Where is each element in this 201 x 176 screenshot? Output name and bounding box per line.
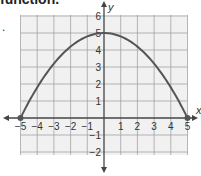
- y-tick-label: 6: [95, 11, 101, 22]
- y-tick-label: −1: [90, 130, 102, 141]
- y-tick-label: 4: [95, 45, 101, 56]
- y-axis-down-arrow-icon: [101, 167, 107, 173]
- x-tick-label: −4: [31, 121, 43, 132]
- x-tick-label: 5: [185, 121, 191, 132]
- x-intercept-point: [185, 115, 191, 121]
- x-tick-label: 3: [151, 121, 157, 132]
- y-tick-label: 1: [95, 96, 101, 107]
- y-axis-label: y: [107, 1, 115, 13]
- x-tick-label: −5: [15, 121, 27, 132]
- y-tick-label: −2: [90, 147, 102, 158]
- x-axis-left-arrow-icon: [3, 115, 9, 121]
- x-tick-label: 2: [135, 121, 141, 132]
- y-tick-label: 2: [95, 79, 101, 90]
- y-tick-label: 3: [95, 62, 101, 73]
- y-axis-up-arrow-icon: [101, 1, 107, 7]
- x-tick-label: 1: [118, 121, 124, 132]
- x-axis-label: x: [195, 104, 201, 116]
- x-tick-label: −2: [65, 121, 77, 132]
- x-tick-label: 4: [168, 121, 174, 132]
- parabola-chart: yx−5−4−3−2−112345−2−1123456: [0, 0, 201, 176]
- x-intercept-point: [18, 115, 24, 121]
- x-tick-label: −3: [48, 121, 60, 132]
